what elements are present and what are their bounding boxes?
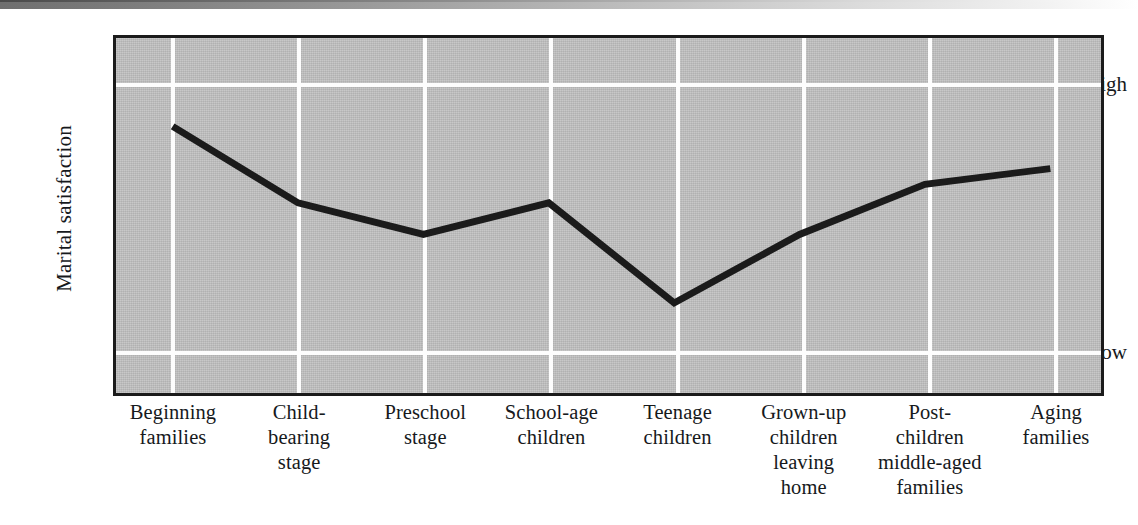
x-axis-label-6-line-2: middle-aged <box>860 450 1000 475</box>
x-axis-label-1-line-2: stage <box>229 450 369 475</box>
x-axis-label-0: Beginningfamilies <box>103 400 243 450</box>
data-line-0 <box>173 126 1051 303</box>
x-axis-label-6: Post-childrenmiddle-agedfamilies <box>860 400 1000 500</box>
plot-area <box>113 35 1104 396</box>
x-axis-label-5-line-2: leaving <box>734 450 874 475</box>
x-axis-label-3-line-1: children <box>481 425 621 450</box>
y-axis-title: Marital satisfaction <box>52 59 77 359</box>
x-axis-label-4-line-0: Teenage <box>608 400 748 425</box>
x-axis-label-0-line-1: families <box>103 425 243 450</box>
x-axis-label-4-line-1: children <box>608 425 748 450</box>
x-axis-label-6-line-1: children <box>860 425 1000 450</box>
x-axis-category-labels: BeginningfamiliesChild-bearingstagePresc… <box>113 400 1104 520</box>
x-axis-label-0-line-0: Beginning <box>103 400 243 425</box>
data-series-layer <box>116 38 1101 393</box>
x-axis-label-3: School-agechildren <box>481 400 621 450</box>
x-axis-label-5-line-0: Grown-up <box>734 400 874 425</box>
x-axis-label-6-line-0: Post- <box>860 400 1000 425</box>
x-axis-label-5-line-1: children <box>734 425 874 450</box>
x-axis-label-7-line-1: families <box>986 425 1126 450</box>
x-axis-label-1-line-0: Child- <box>229 400 369 425</box>
x-axis-label-1-line-1: bearing <box>229 425 369 450</box>
x-axis-label-2-line-0: Preschool <box>355 400 495 425</box>
x-axis-label-5-line-3: home <box>734 475 874 500</box>
x-axis-label-6-line-3: families <box>860 475 1000 500</box>
x-axis-label-2: Preschoolstage <box>355 400 495 450</box>
x-axis-label-1: Child-bearingstage <box>229 400 369 475</box>
x-axis-label-7-line-0: Aging <box>986 400 1126 425</box>
x-axis-label-3-line-0: School-age <box>481 400 621 425</box>
marital-satisfaction-line-chart: Marital satisfaction High Low Beginningf… <box>0 0 1138 525</box>
x-axis-label-5: Grown-upchildrenleavinghome <box>734 400 874 500</box>
x-axis-label-2-line-1: stage <box>355 425 495 450</box>
x-axis-label-7: Agingfamilies <box>986 400 1126 450</box>
x-axis-label-4: Teenagechildren <box>608 400 748 450</box>
